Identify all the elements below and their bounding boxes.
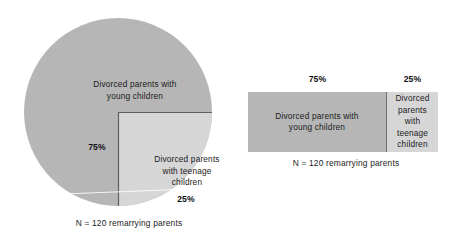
pie-slice-major-label: Divorced parents with young children — [62, 79, 208, 102]
pie-slice-minor-percent: 25% — [155, 194, 217, 204]
bar-segment-minor-label-line3: with — [405, 116, 420, 126]
pie-chart-graphic: Divorced parents with young children 75%… — [24, 18, 212, 206]
bar-segment-minor-label-line2: parents — [398, 105, 427, 115]
bar-segment-major: Divorced parents with young children — [248, 92, 387, 152]
bar-percent-labels: 75% 25% — [248, 74, 438, 87]
bar-chart-graphic: Divorced parents with young children Div… — [248, 92, 438, 152]
pie-slice-major-label-line2: young children — [107, 91, 163, 101]
bar-segment-major-label-line2: young children — [289, 122, 345, 132]
pie-slice-minor-label-line1: Divorced parents — [154, 154, 219, 164]
bar-segment-minor-label-line4: teenage — [397, 128, 428, 138]
bar-chart-caption: N = 120 remarrying parents — [240, 158, 452, 168]
bar-segment-minor: Divorced parents with teenage children — [387, 92, 438, 152]
pie-chart-caption: N = 120 remarrying parents — [0, 218, 240, 228]
pie-slice-major-percent: 75% — [74, 142, 120, 152]
pie-slice-minor-label: Divorced parents with teenage children — [140, 154, 234, 189]
bar-segment-major-percent: 75% — [248, 74, 387, 84]
bar-segment-minor-label-line1: Divorced — [395, 93, 429, 103]
bar-segment-major-label: Divorced parents with young children — [272, 111, 361, 134]
bar-segment-minor-percent: 25% — [387, 74, 438, 84]
bar-segment-minor-label: Divorced parents with teenage children — [392, 93, 432, 151]
pie-chart-panel: Divorced parents with young children 75%… — [0, 0, 240, 244]
bar-chart-panel: 75% 25% Divorced parents with young chil… — [240, 0, 452, 244]
pie-slice-minor-label-line3: children — [172, 177, 202, 187]
pie-slice-major-label-line1: Divorced parents with — [93, 79, 176, 89]
figure-root: Divorced parents with young children 75%… — [0, 0, 452, 244]
pie-slice-minor-label-line2: with teenage — [162, 166, 211, 176]
bar-segment-major-label-line1: Divorced parents with — [275, 111, 358, 121]
bar-segment-minor-label-line5: children — [397, 139, 427, 149]
